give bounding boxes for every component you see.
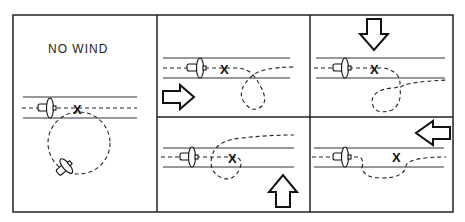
wind-arrow-up-icon bbox=[269, 175, 297, 207]
airplane-icon bbox=[333, 58, 351, 78]
x-marker: X bbox=[370, 62, 379, 77]
wind-arrow-left-icon bbox=[416, 121, 450, 145]
x-marker: X bbox=[220, 62, 229, 77]
panel-wind-from-top: X bbox=[314, 19, 448, 112]
wind-arrow-right-icon bbox=[163, 85, 194, 109]
airplane-icon bbox=[180, 147, 198, 167]
x-marker: X bbox=[392, 150, 401, 165]
airplane-icon bbox=[38, 98, 56, 118]
x-marker: X bbox=[73, 102, 82, 117]
x-marker: X bbox=[228, 151, 237, 166]
panel-wind-from-bottom: X bbox=[161, 135, 297, 207]
flight-path-circle bbox=[48, 112, 110, 174]
flight-path bbox=[314, 68, 448, 112]
panel-label: NO WIND bbox=[48, 42, 108, 56]
wind-diagram: NO WIND X X bbox=[0, 0, 465, 222]
airplane-icon-turning bbox=[52, 155, 77, 180]
airplane-icon bbox=[333, 147, 351, 167]
panel-wind-from-right: X bbox=[312, 121, 450, 178]
panel-no-wind: NO WIND X bbox=[22, 42, 137, 180]
wind-arrow-down-icon bbox=[360, 19, 388, 50]
panel-wind-from-left: X bbox=[163, 58, 295, 109]
airplane-icon bbox=[187, 58, 206, 78]
